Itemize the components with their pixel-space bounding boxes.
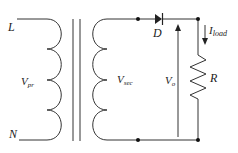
label-v-secondary: Vsec: [117, 73, 134, 87]
junction-dot-bottom-left: [136, 138, 140, 142]
junction-dot-top-right: [196, 17, 200, 21]
label-resistor: R: [209, 71, 218, 85]
vo-arrowhead-icon: [175, 24, 181, 31]
label-diode: D: [152, 26, 162, 40]
label-neutral: N: [8, 127, 18, 141]
primary-coil: [47, 19, 61, 140]
label-v-out: Vo: [165, 74, 176, 88]
junction-dot-top-left: [136, 17, 140, 21]
iload-arrowhead-icon: [202, 38, 208, 45]
rectifier-circuit-diagram: L N Vpr Vsec D Iload Vo R: [0, 0, 238, 153]
resistor: [190, 55, 206, 99]
diode-symbol: [155, 13, 163, 25]
junction-dot-bottom-right: [196, 138, 200, 142]
label-line: L: [7, 20, 15, 34]
label-i-load: Iload: [208, 24, 228, 38]
label-v-primary: Vpr: [21, 75, 34, 89]
secondary-coil: [93, 19, 107, 140]
